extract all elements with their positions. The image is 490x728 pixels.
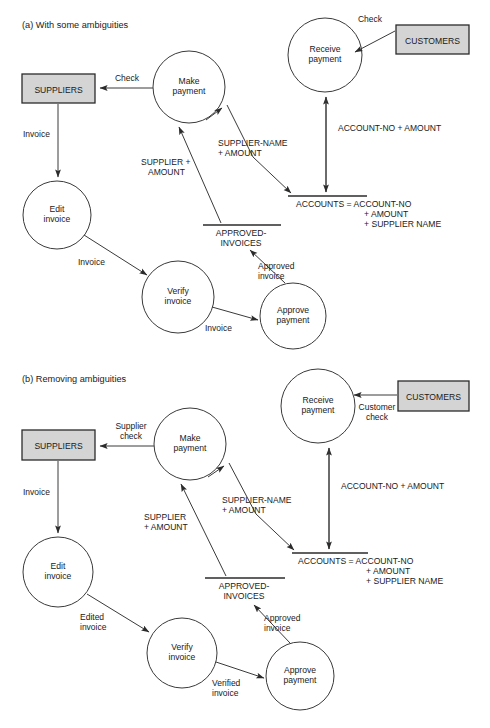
panel-a-entity-customers: CUSTOMERS (396, 25, 469, 54)
panel-b-process-make-payment: Make payment (154, 408, 226, 480)
customers-to-receive-label-line2: check (366, 412, 389, 422)
approve-payment-label-line1: Approve (284, 665, 316, 675)
approve-to-approved-invoices-label-line2: invoice (264, 623, 291, 633)
make-payment-label-line2: payment (174, 443, 208, 453)
panel-a-process-approve-payment: Approve payment (260, 283, 326, 349)
accounts-store-label-line2: + AMOUNT (364, 209, 409, 219)
customers-to-receive-label: Check (358, 14, 383, 24)
accounts-store-label-line1: ACCOUNTS = ACCOUNT-NO (298, 556, 414, 566)
approve-payment-label-line2: payment (284, 675, 318, 685)
suppliers-label: SUPPLIERS (34, 441, 83, 451)
panel-a-entity-suppliers: SUPPLIERS (22, 74, 95, 103)
approve-payment-label-line2: payment (277, 315, 311, 325)
edit-invoice-label-line1: Edit (50, 204, 65, 214)
verify-to-approve-label-line2: invoice (212, 688, 239, 698)
receive-payment-label-line1: Receive (302, 395, 333, 405)
panel-a-process-edit-invoice: Edit invoice (23, 181, 91, 249)
suppliers-to-edit-label: Invoice (23, 129, 50, 139)
receive-payment-label-line2: payment (302, 405, 336, 415)
approved-invoices-store-label-line1: APPROVED- (219, 581, 270, 591)
make-payment-label-line1: Make (179, 433, 200, 443)
edit-invoice-label-line1: Edit (51, 561, 66, 571)
accounts-to-make-label-line2: + AMOUNT (218, 148, 262, 158)
approved-invoices-to-make-label-line1: SUPPLIER + (141, 157, 190, 167)
panel-b-process-edit-invoice: Edit invoice (23, 537, 93, 607)
panel-b-process-receive-payment: Receive payment (281, 369, 355, 443)
accounts-store-label-line3: + SUPPLIER NAME (366, 576, 443, 586)
panel-b-caption: (b) Removing ambiguities (22, 374, 127, 384)
panel-b-process-approve-payment: Approve payment (266, 642, 334, 710)
accounts-store-label-line1: ACCOUNTS = ACCOUNT-NO (296, 199, 412, 209)
panel-a-process-receive-payment: Receive payment (288, 18, 362, 92)
panel-a-process-make-payment: Make payment (153, 51, 225, 123)
approve-payment-label-line1: Approve (277, 305, 309, 315)
edit-to-verify-label-line1: Edited (80, 612, 104, 622)
customers-label: CUSTOMERS (406, 392, 461, 402)
approve-to-approved-invoices-label-line1: Approved (264, 613, 301, 623)
customers-label: CUSTOMERS (405, 36, 460, 46)
panel-a-caption: (a) With some ambiguities (22, 20, 129, 30)
accounts-to-make-label-line2: + AMOUNT (222, 505, 266, 515)
edit-to-verify-label: Invoice (78, 257, 105, 267)
accounts-to-make-label-line1: SUPPLIER-NAME (218, 138, 288, 148)
accounts-to-make-label-line1: SUPPLIER-NAME (222, 495, 292, 505)
suppliers-to-edit-label: Invoice (23, 487, 50, 497)
verify-to-approve-label: Invoice (205, 323, 232, 333)
approved-invoices-store-label-line2: INVOICES (220, 238, 261, 248)
receive-payment-label-line2: payment (309, 54, 343, 64)
dfd-canvas: (a) With some ambiguities SUPPLIERS CUST… (0, 0, 490, 728)
make-payment-label-line2: payment (173, 86, 207, 96)
make-payment-label-line1: Make (178, 76, 199, 86)
dfd-figure: (a) With some ambiguities SUPPLIERS CUST… (0, 0, 490, 728)
verify-invoice-label-line1: Verify (171, 642, 193, 652)
accounts-store-label-line3: + SUPPLIER NAME (364, 219, 441, 229)
make-to-suppliers-label-line2: check (120, 431, 143, 441)
approved-invoices-to-make-label-line2: AMOUNT (148, 167, 185, 177)
receive-payment-label-line1: Receive (309, 44, 340, 54)
edit-invoice-label-line2: invoice (45, 571, 72, 581)
approved-invoices-store-label-line1: APPROVED- (216, 228, 267, 238)
panel-b-process-verify-invoice: Verify invoice (147, 618, 217, 688)
suppliers-label: SUPPLIERS (34, 85, 83, 95)
verify-invoice-label-line2: invoice (165, 296, 192, 306)
panel-b-entity-customers: CUSTOMERS (398, 381, 469, 411)
approved-invoices-to-make-label-line1: SUPPLIER (144, 512, 186, 522)
make-to-suppliers-label-line1: Supplier (115, 421, 146, 431)
verify-to-approve-label-line1: Verified (212, 678, 241, 688)
approved-invoices-store-label-line2: INVOICES (223, 591, 264, 601)
make-to-suppliers-label: Check (115, 73, 140, 83)
receive-accounts-label: ACCOUNT-NO + AMOUNT (341, 481, 444, 491)
receive-accounts-label: ACCOUNT-NO + AMOUNT (338, 123, 441, 133)
accounts-store-label-line2: + AMOUNT (366, 566, 411, 576)
panel-a-process-verify-invoice: Verify invoice (142, 261, 214, 333)
verify-invoice-label-line2: invoice (169, 652, 196, 662)
approve-to-approved-invoices-label-line1: Approved (258, 261, 295, 271)
customers-to-receive-label-line1: Customer (359, 402, 396, 412)
verify-invoice-label-line1: Verify (167, 286, 189, 296)
approve-to-approved-invoices-label-line2: invoice (258, 271, 285, 281)
figure-background (0, 0, 490, 728)
edit-to-verify-label-line2: invoice (80, 622, 107, 632)
panel-b-entity-suppliers: SUPPLIERS (22, 430, 95, 460)
approved-invoices-to-make-label-line2: + AMOUNT (144, 522, 188, 532)
edit-invoice-label-line2: invoice (44, 214, 71, 224)
